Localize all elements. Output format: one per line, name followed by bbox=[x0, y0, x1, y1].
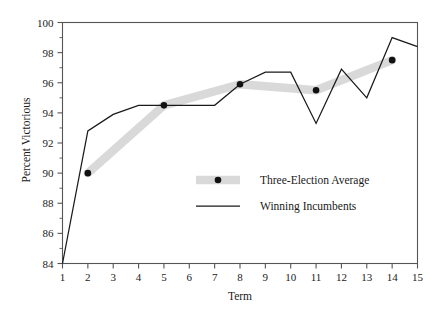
legend-label-three-election-average: Three-Election Average bbox=[260, 174, 369, 187]
y-tick-label: 86 bbox=[43, 227, 55, 239]
data-point-marker bbox=[313, 87, 320, 94]
legend-label-winning-incumbents: Winning Incumbents bbox=[260, 200, 357, 213]
x-tick-label: 9 bbox=[263, 271, 269, 283]
x-tick-label: 6 bbox=[187, 271, 193, 283]
data-point-marker bbox=[85, 170, 92, 177]
y-tick-label: 98 bbox=[43, 47, 55, 59]
x-axis-title: Term bbox=[228, 290, 252, 302]
x-tick-label: 15 bbox=[412, 271, 424, 283]
x-tick-label: 3 bbox=[110, 271, 116, 283]
data-point-marker bbox=[389, 57, 396, 64]
x-tick-label: 8 bbox=[237, 271, 243, 283]
chart-figure: 8486889092949698100 12345678910111213141… bbox=[0, 0, 440, 310]
legend-marker-three-election-average bbox=[215, 177, 222, 184]
x-tick-label: 2 bbox=[85, 271, 91, 283]
y-tick-label: 100 bbox=[37, 17, 54, 29]
x-tick-label: 5 bbox=[161, 271, 167, 283]
percent-victorious-line-chart: 8486889092949698100 12345678910111213141… bbox=[0, 0, 440, 310]
y-axis-title: Percent Victorious bbox=[20, 97, 32, 183]
x-tick-label: 14 bbox=[387, 271, 399, 283]
x-tick-label: 13 bbox=[361, 271, 373, 283]
data-point-marker bbox=[237, 81, 244, 88]
y-tick-label: 84 bbox=[43, 258, 55, 270]
data-point-marker bbox=[161, 102, 168, 109]
x-tick-label: 12 bbox=[336, 271, 347, 283]
x-tick-label: 10 bbox=[285, 271, 297, 283]
x-tick-label: 1 bbox=[60, 271, 66, 283]
y-tick-label: 96 bbox=[43, 77, 55, 89]
y-tick-label: 92 bbox=[43, 137, 54, 149]
x-tick-label: 7 bbox=[212, 271, 218, 283]
y-tick-label: 94 bbox=[43, 107, 55, 119]
x-tick-label: 4 bbox=[136, 271, 142, 283]
y-tick-label: 90 bbox=[43, 167, 55, 179]
x-tick-label: 11 bbox=[311, 271, 322, 283]
y-tick-label: 88 bbox=[43, 197, 55, 209]
